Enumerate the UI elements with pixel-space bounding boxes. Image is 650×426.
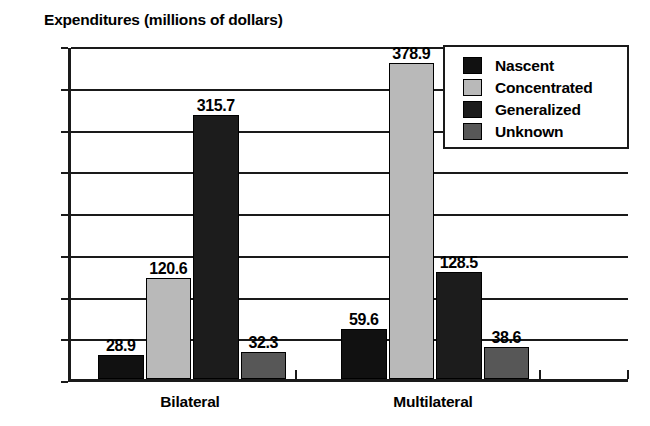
bar-multilateral-nascent	[341, 329, 387, 379]
bar-bilateral-generalized	[193, 115, 239, 379]
legend-swatch-concentrated-icon	[463, 79, 482, 96]
gridline-150	[71, 256, 628, 258]
y-tick-mark-300	[61, 131, 68, 133]
x-axis-tick-2	[627, 370, 629, 379]
bar-value-label-bilateral-concentrated: 120.6	[149, 260, 187, 278]
y-tick-mark-0	[61, 381, 68, 383]
bar-value-label-bilateral-unknown: 32.3	[248, 334, 278, 352]
bar-value-label-bilateral-generalized: 315.7	[197, 97, 235, 115]
gridline-250	[71, 172, 628, 174]
bar-bilateral-concentrated	[146, 278, 192, 379]
y-tick-mark-50	[61, 339, 68, 341]
legend-item-unknown[interactable]: Unknown	[463, 121, 563, 142]
legend-label-generalized: Generalized	[495, 101, 581, 119]
legend-swatch-generalized-icon	[463, 101, 482, 118]
legend-item-nascent[interactable]: Nascent	[463, 55, 554, 76]
y-tick-mark-200	[61, 214, 68, 216]
gridline-200	[71, 214, 628, 216]
y-tick-mark-100	[61, 298, 68, 300]
bar-chart: Expenditures (millions of dollars) 05010…	[0, 0, 650, 426]
y-tick-mark-250	[61, 172, 68, 174]
bar-multilateral-generalized	[436, 272, 482, 379]
chart-legend: NascentConcentratedGeneralizedUnknown	[443, 45, 629, 149]
bar-value-label-multilateral-generalized: 128.5	[440, 254, 478, 272]
bar-multilateral-concentrated	[389, 63, 435, 379]
bar-value-label-multilateral-concentrated: 378.9	[392, 45, 430, 63]
legend-label-nascent: Nascent	[495, 57, 554, 75]
y-tick-mark-400	[61, 47, 68, 49]
legend-label-concentrated: Concentrated	[495, 79, 593, 97]
bar-bilateral-nascent	[98, 355, 144, 379]
y-tick-mark-350	[61, 89, 68, 91]
x-category-label-bilateral: Bilateral	[160, 393, 219, 411]
legend-swatch-nascent-icon	[463, 57, 482, 74]
y-tick-mark-150	[61, 256, 68, 258]
bar-bilateral-unknown	[241, 352, 287, 379]
legend-label-unknown: Unknown	[495, 123, 563, 141]
x-axis-tick-1	[539, 370, 541, 379]
legend-item-concentrated[interactable]: Concentrated	[463, 77, 593, 98]
x-category-label-multilateral: Multilateral	[393, 393, 472, 411]
x-axis-tick-0	[295, 370, 297, 379]
chart-title: Expenditures (millions of dollars)	[44, 11, 283, 29]
legend-swatch-unknown-icon	[463, 123, 482, 140]
bar-multilateral-unknown	[484, 347, 530, 379]
bar-value-label-multilateral-nascent: 59.6	[349, 311, 379, 329]
bar-value-label-multilateral-unknown: 38.6	[491, 329, 521, 347]
legend-item-generalized[interactable]: Generalized	[463, 99, 581, 120]
bar-value-label-bilateral-nascent: 28.9	[106, 337, 136, 355]
